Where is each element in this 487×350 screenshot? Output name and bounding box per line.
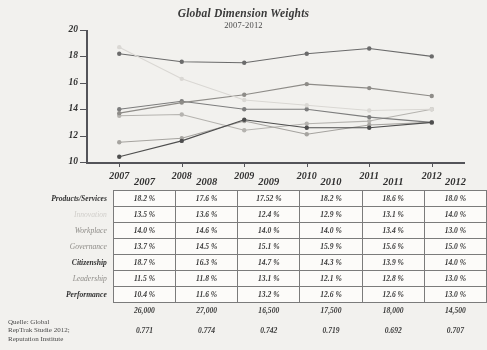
table-header-row: 200720082009201020112012	[0, 176, 487, 191]
table-row: Leadership11.5 %11.8 %13.1 %12.1 %12.8 %…	[0, 271, 487, 287]
y-tick-label: 18	[54, 50, 78, 60]
data-point	[305, 52, 309, 56]
column-header-2012: 2012	[424, 176, 486, 191]
data-point	[305, 125, 309, 129]
table-row: Innovation13.5 %13.6 %12.4 %12.9 %13.1 %…	[0, 207, 487, 223]
row-label: Leadership	[0, 271, 113, 287]
sample-size-cell: 18,000	[362, 303, 424, 319]
table-row: Performance10.4 %11.6 %13.2 %12.6 %12.6 …	[0, 287, 487, 303]
table-cell: 10.4 %	[113, 287, 175, 303]
data-point	[367, 125, 371, 129]
sample-size-cell: 26,000	[113, 303, 175, 319]
table-cell: 15.6 %	[362, 239, 424, 255]
column-header-2007: 2007	[113, 176, 175, 191]
reliability-row: Quelle: GlobalRepTrak Studie 2012;Reputa…	[0, 318, 487, 343]
x-tick-mark	[182, 162, 183, 167]
data-point	[305, 107, 309, 111]
column-header-2010: 2010	[300, 176, 362, 191]
table-cell: 14.5 %	[176, 239, 238, 255]
series-line	[119, 47, 432, 110]
y-tick-mark	[80, 162, 86, 163]
row-label: Products/Services	[0, 191, 113, 207]
table-cell: 18.0 %	[424, 191, 486, 207]
x-tick-mark	[244, 162, 245, 167]
y-tick-mark	[80, 83, 86, 84]
table-cell: 15.9 %	[300, 239, 362, 255]
table-cell: 13.0 %	[424, 271, 486, 287]
column-header-2008: 2008	[176, 176, 238, 191]
data-point	[117, 140, 121, 144]
table-cell: 18.6 %	[362, 191, 424, 207]
data-point	[242, 128, 246, 132]
table-body: Products/Services18.2 %17.6 %17.52 %18.2…	[0, 191, 487, 344]
y-tick-label: 16	[54, 77, 78, 87]
plot-area: 101214161820 200720082009201020112012	[88, 30, 463, 162]
y-tick-mark	[80, 109, 86, 110]
table-cell: 13.1 %	[238, 271, 300, 287]
table-corner-cell	[0, 176, 113, 191]
data-point	[242, 92, 246, 96]
data-point	[117, 155, 121, 159]
data-point	[117, 111, 121, 115]
data-point	[305, 132, 309, 136]
column-header-2011: 2011	[362, 176, 424, 191]
table-cell: 14.7 %	[238, 255, 300, 271]
spacer-cell	[0, 303, 113, 319]
row-label: Performance	[0, 287, 113, 303]
data-table-area: 200720082009201020112012 Products/Servic…	[0, 176, 487, 350]
series-line	[119, 101, 432, 122]
data-point	[430, 120, 434, 124]
y-tick-label: 12	[54, 130, 78, 140]
data-point	[180, 100, 184, 104]
line-chart: Global Dimension Weights 2007-2012 10121…	[0, 0, 487, 175]
data-point	[180, 59, 184, 63]
table-cell: 11.5 %	[113, 271, 175, 287]
sample-size-row: 26,00027,00016,50017,50018,00014,500	[0, 303, 487, 319]
table-row: Governance13.7 %14.5 %15.1 %15.9 %15.6 %…	[0, 239, 487, 255]
x-tick-mark	[432, 162, 433, 167]
data-point	[117, 52, 121, 56]
data-point	[180, 77, 184, 81]
table-cell: 11.8 %	[176, 271, 238, 287]
table-cell: 14.3 %	[300, 255, 362, 271]
table-cell: 12.8 %	[362, 271, 424, 287]
data-point	[305, 122, 309, 126]
series-performance	[117, 118, 434, 159]
row-label: Innovation	[0, 207, 113, 223]
table-cell: 14.0 %	[113, 223, 175, 239]
y-tick-mark	[80, 56, 86, 57]
reliability-cell: 0.719	[300, 318, 362, 343]
row-label: Workplace	[0, 223, 113, 239]
data-point	[242, 118, 246, 122]
table-cell: 18.2 %	[300, 191, 362, 207]
x-tick-mark	[119, 162, 120, 167]
series-lines	[88, 30, 463, 162]
table-row: Products/Services18.2 %17.6 %17.52 %18.2…	[0, 191, 487, 207]
data-point	[367, 108, 371, 112]
table-cell: 14.0 %	[424, 207, 486, 223]
series-line	[119, 120, 432, 157]
series-innovation	[117, 107, 434, 133]
table-cell: 12.6 %	[362, 287, 424, 303]
table-cell: 13.9 %	[362, 255, 424, 271]
y-tick-mark	[80, 136, 86, 137]
table-cell: 13.1 %	[362, 207, 424, 223]
sample-size-cell: 16,500	[238, 303, 300, 319]
series-line	[119, 48, 432, 62]
data-point	[367, 115, 371, 119]
data-point	[242, 98, 246, 102]
data-point	[367, 86, 371, 90]
data-point	[305, 103, 309, 107]
table-cell: 18.2 %	[113, 191, 175, 207]
table-cell: 14.0 %	[238, 223, 300, 239]
dimension-weights-table: 200720082009201020112012 Products/Servic…	[0, 176, 487, 343]
table-cell: 13.7 %	[113, 239, 175, 255]
table-cell: 13.2 %	[238, 287, 300, 303]
reliability-cell: 0.742	[238, 318, 300, 343]
table-cell: 17.52 %	[238, 191, 300, 207]
table-cell: 12.1 %	[300, 271, 362, 287]
x-axis-line	[86, 162, 465, 164]
table-cell: 13.4 %	[362, 223, 424, 239]
sample-size-cell: 27,000	[176, 303, 238, 319]
source-note-line: RepTrak Studie 2012;	[8, 326, 113, 334]
